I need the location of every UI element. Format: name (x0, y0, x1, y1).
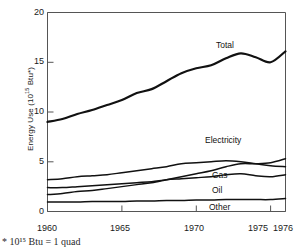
series-label-oil: Oil (212, 186, 222, 195)
series-label-electricity: Electricity (205, 136, 241, 145)
series-line-other (48, 199, 286, 203)
data-series-group (48, 51, 286, 202)
series-line-gas (48, 161, 286, 180)
series-label-total: Total (216, 41, 234, 50)
footnote: * 10¹⁵ Btu = 1 quad (2, 236, 81, 247)
energy-use-line-chart: Energy Use (1015 Btu*) 20 15 10 5 0 1960… (0, 0, 298, 248)
series-line-total (48, 51, 286, 122)
series-label-gas: Gas (212, 171, 228, 180)
plot-area (0, 0, 298, 248)
series-label-other: Other (209, 203, 230, 212)
